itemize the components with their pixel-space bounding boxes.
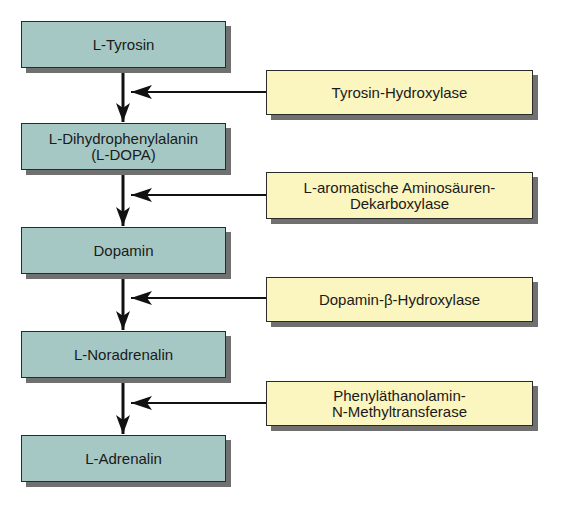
substrate-label: L-Adrenalin bbox=[85, 451, 162, 467]
enzyme-label: L-aromatische Aminosäuren- Dekarboxylase bbox=[304, 180, 496, 212]
substrate-label: L-Noradrenalin bbox=[74, 347, 173, 363]
substrate-box-l-adrenalin: L-Adrenalin bbox=[21, 435, 226, 482]
substrate-box-l-tyrosin: L-Tyrosin bbox=[21, 21, 226, 68]
substrate-label: L-Dihydrophenylalanin (L-DOPA) bbox=[49, 131, 198, 163]
substrate-box-l-noradrenalin: L-Noradrenalin bbox=[21, 331, 226, 378]
enzyme-label: Phenyläthanolamin- N-Methyltransferase bbox=[332, 388, 467, 420]
enzyme-label: Tyrosin-Hydroxylase bbox=[332, 85, 468, 101]
enzyme-box-aromatic-decarboxylase: L-aromatische Aminosäuren- Dekarboxylase bbox=[266, 172, 533, 219]
enzyme-box-tyrosin-hydroxylase: Tyrosin-Hydroxylase bbox=[266, 70, 533, 115]
substrate-label: Dopamin bbox=[93, 243, 153, 259]
substrate-box-dopamin: Dopamin bbox=[21, 227, 226, 274]
enzyme-label: Dopamin-β-Hydroxylase bbox=[319, 292, 480, 308]
substrate-label: L-Tyrosin bbox=[93, 37, 155, 53]
pathway-diagram: L-Tyrosin L-Dihydrophenylalanin (L-DOPA)… bbox=[0, 0, 561, 518]
enzyme-box-pnmt: Phenyläthanolamin- N-Methyltransferase bbox=[266, 381, 533, 426]
substrate-box-l-dopa: L-Dihydrophenylalanin (L-DOPA) bbox=[21, 123, 226, 170]
enzyme-box-dopamin-beta-hydroxylase: Dopamin-β-Hydroxylase bbox=[266, 277, 533, 322]
